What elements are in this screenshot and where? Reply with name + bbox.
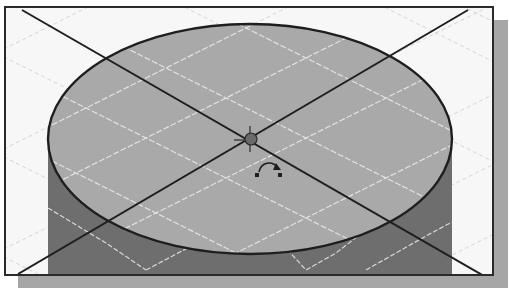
graphics-viewport[interactable]: 3D model viewport [4,6,494,276]
